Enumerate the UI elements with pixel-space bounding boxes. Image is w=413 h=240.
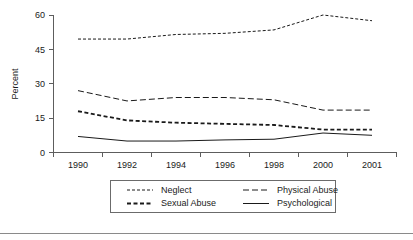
chart-legend: NeglectPhysical AbuseSexual AbusePsychol… (111, 181, 339, 213)
series-line-neglect (78, 15, 372, 39)
y-tick-label: 0 (40, 148, 45, 158)
legend-label: Sexual Abuse (161, 198, 216, 208)
y-axis-title: Percent (10, 68, 20, 100)
legend-label: Psychological (277, 198, 332, 208)
x-tick-label: 1994 (166, 160, 186, 170)
chart-figure: 015304560 1990199219941996199820002001 P… (0, 0, 413, 240)
y-tick-label: 60 (35, 10, 45, 20)
x-tick-label: 1992 (117, 160, 137, 170)
x-axis-ticks: 1990199219941996199820002001 (54, 153, 397, 170)
line-chart: 015304560 1990199219941996199820002001 P… (0, 0, 413, 240)
y-axis-ticks: 015304560 (35, 10, 54, 158)
series-layer (78, 15, 372, 141)
y-tick-label: 15 (35, 113, 45, 123)
x-tick-label: 1996 (215, 160, 235, 170)
legend-label: Neglect (161, 185, 192, 195)
series-line-psychological (78, 133, 372, 141)
x-tick-label: 2001 (362, 160, 382, 170)
legend-label: Physical Abuse (277, 185, 338, 195)
series-line-physical-abuse (78, 91, 372, 110)
series-line-sexual-abuse (78, 111, 372, 129)
x-tick-label: 1990 (68, 160, 88, 170)
y-tick-label: 45 (35, 45, 45, 55)
plot-area: 015304560 1990199219941996199820002001 (35, 10, 397, 169)
y-tick-label: 30 (35, 79, 45, 89)
x-tick-label: 2000 (313, 160, 333, 170)
x-tick-label: 1998 (264, 160, 284, 170)
